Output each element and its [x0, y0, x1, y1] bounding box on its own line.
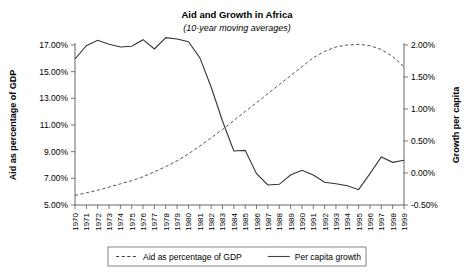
x-axis-tick-label: 1982 [207, 212, 216, 230]
right-axis-tick-label: -0.50% [411, 200, 438, 210]
left-axis-tick-label: 5.00% [44, 200, 69, 210]
x-axis-tick-label: 1996 [366, 212, 375, 230]
aid-and-growth-chart: Aid and Growth in Africa(10-year moving … [0, 0, 474, 280]
x-axis-tick-label: 1984 [230, 212, 239, 230]
x-axis-tick-label: 1985 [241, 212, 250, 230]
series-line-solid [75, 38, 404, 190]
x-axis-tick-label: 1980 [184, 212, 193, 230]
x-axis-tick-label: 1977 [150, 212, 159, 230]
x-axis-tick-label: 1970 [71, 212, 80, 230]
chart-subtitle: (10-year moving averages) [183, 23, 291, 33]
x-axis-tick-label: 1991 [309, 212, 318, 230]
left-axis-tick-label: 17.00% [39, 40, 68, 50]
x-axis-tick-label: 1971 [82, 212, 91, 230]
legend-label: Aid as percentage of GDP [143, 252, 242, 262]
x-axis-tick-label: 1972 [94, 212, 103, 230]
x-axis-tick-label: 1995 [355, 212, 364, 230]
left-axis-tick-label: 9.00% [44, 147, 69, 157]
series-line-dashed [75, 44, 404, 195]
left-axis-tick-label: 7.00% [44, 173, 69, 183]
x-axis-tick-label: 1988 [275, 212, 284, 230]
x-axis-tick-label: 1990 [298, 212, 307, 230]
x-axis-tick-label: 1987 [264, 212, 273, 230]
right-axis-tick-label: 2.00% [411, 40, 436, 50]
x-axis-tick-label: 1976 [139, 212, 148, 230]
x-axis-tick-label: 1993 [332, 212, 341, 230]
x-axis-tick-label: 1992 [321, 212, 330, 230]
legend-label: Per capita growth [295, 252, 361, 262]
x-axis-tick-label: 1974 [116, 212, 125, 230]
x-axis-tick-label: 1999 [400, 212, 409, 230]
right-axis-tick-label: 1.50% [411, 72, 436, 82]
left-axis-tick-label: 15.00% [39, 67, 68, 77]
x-axis-tick-label: 1998 [389, 212, 398, 230]
right-axis-title: Growth per capita [451, 86, 461, 164]
x-axis-tick-label: 1979 [173, 212, 182, 230]
x-axis-tick-label: 1981 [196, 212, 205, 230]
x-axis-tick-label: 1989 [287, 212, 296, 230]
x-axis-tick-label: 1975 [128, 212, 137, 230]
x-axis-tick-label: 1973 [105, 212, 114, 230]
x-axis-tick-label: 1983 [218, 212, 227, 230]
left-axis-tick-label: 13.00% [39, 93, 68, 103]
x-axis-tick-label: 1986 [253, 212, 262, 230]
right-axis-tick-label: 1.00% [411, 104, 436, 114]
chart-title: Aid and Growth in Africa [181, 9, 293, 20]
chart-container: Aid and Growth in Africa(10-year moving … [0, 0, 474, 280]
right-axis-tick-label: 0.00% [411, 168, 436, 178]
x-axis-tick-label: 1997 [377, 212, 386, 230]
left-axis-title: Aid as percentage of GDP [8, 70, 18, 181]
left-axis-tick-label: 11.00% [40, 120, 69, 130]
x-axis-tick-label: 1978 [162, 212, 171, 230]
right-axis-tick-label: 0.50% [411, 136, 436, 146]
x-axis-tick-label: 1994 [343, 212, 352, 230]
